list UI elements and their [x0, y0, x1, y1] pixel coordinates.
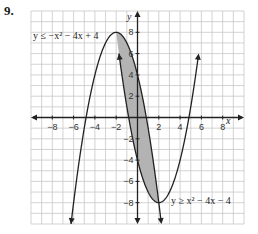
y-tick-label: −8	[123, 198, 133, 208]
y-tick-label: 8	[128, 27, 133, 37]
y-axis-label: y	[126, 11, 132, 22]
y-tick-label: 4	[128, 70, 133, 80]
y-tick-label: −6	[123, 176, 133, 186]
x-tick-label: 4	[178, 122, 183, 132]
x-tick-label: −8	[47, 122, 57, 132]
x-axis-label: x	[225, 115, 231, 126]
y-tick-label: −2	[123, 134, 133, 144]
x-tick-label: −2	[111, 122, 121, 132]
y-tick-label: 6	[128, 49, 133, 59]
x-tick-label: 8	[220, 122, 225, 132]
inequality-label-2: y ≥ x² − 4x − 4	[171, 195, 231, 206]
inequality-label-1: y ≤ −x² − 4x + 4	[33, 30, 98, 41]
x-tick-label: −4	[90, 122, 100, 132]
x-tick-label: 6	[199, 122, 204, 132]
arrowhead-icon	[195, 54, 201, 60]
y-tick-label: −4	[123, 155, 133, 165]
x-tick-label: −6	[68, 122, 78, 132]
coordinate-plane: −8−6−4−224688642−2−4−6−8 x y y ≤ −x² − 4…	[0, 0, 258, 234]
y-tick-label: 2	[128, 91, 133, 101]
x-tick-label: 2	[156, 122, 161, 132]
